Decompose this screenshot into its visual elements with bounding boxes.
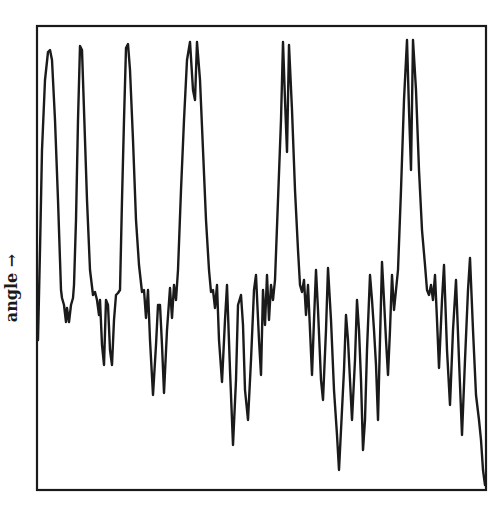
y-axis-label: angle → xyxy=(2,252,22,324)
plot-frame xyxy=(37,26,486,490)
angle-chart xyxy=(0,0,490,505)
angle-series-line xyxy=(38,40,485,485)
